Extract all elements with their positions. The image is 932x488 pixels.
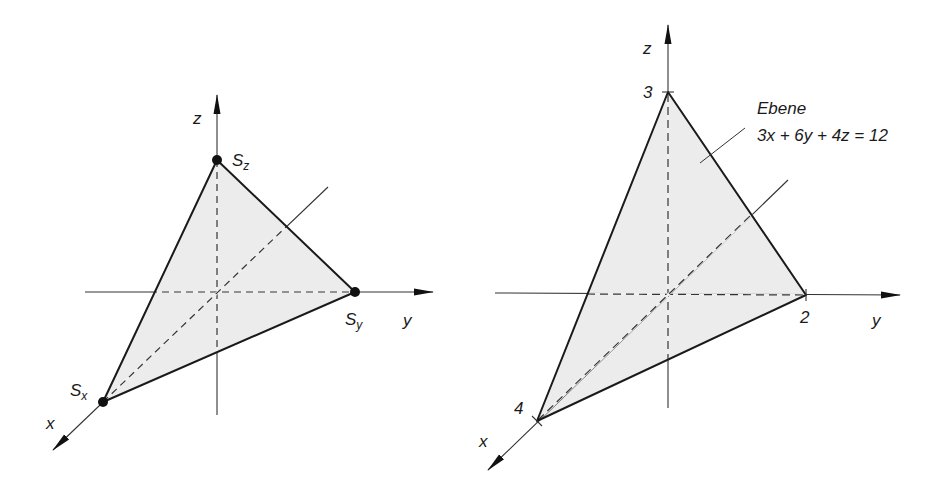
z-axis-label: z (192, 109, 202, 128)
sx-label: Sx (70, 381, 88, 403)
plane-label-equation: 3x + 6y + 4z = 12 (757, 126, 888, 145)
point-sz (212, 155, 222, 165)
z-intercept-label: 3 (643, 83, 653, 102)
y-axis-label: y (402, 311, 413, 330)
plane-label-title: Ebene (757, 99, 806, 118)
x-axis-label: x (45, 414, 55, 433)
right-figure: z y x 3 2 4 Ebene 3x + 6y + 4z = 12 (478, 25, 900, 470)
y-intercept-label: 2 (799, 308, 810, 327)
sz-label: Sz (232, 151, 249, 173)
left-figure: z y x Sz Sy Sx (45, 95, 433, 450)
point-sx (98, 397, 108, 407)
plane-label-leader (700, 128, 745, 163)
x-intercept-label: 4 (514, 399, 523, 418)
y-axis-label: y (871, 311, 882, 330)
sy-label: Sy (345, 310, 363, 332)
x-axis-label: x (478, 432, 488, 451)
diagram-canvas: z y x Sz Sy Sx z y x 3 2 4 E (0, 0, 932, 488)
z-axis-label: z (642, 39, 652, 58)
point-sy (350, 287, 360, 297)
